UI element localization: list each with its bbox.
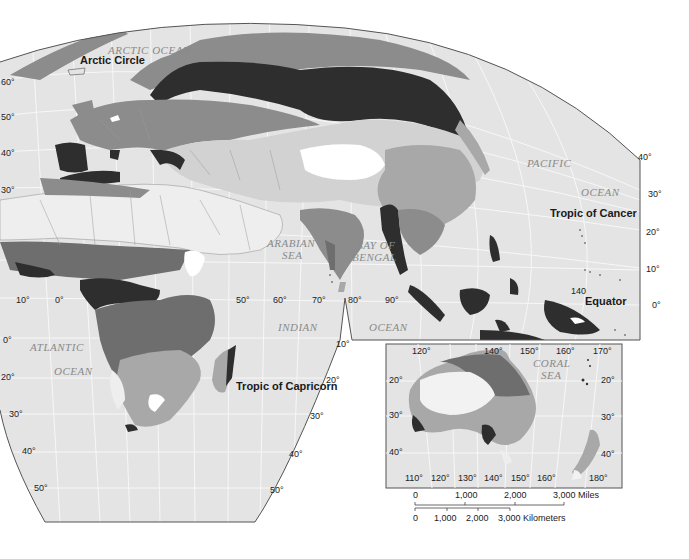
- scale-km-2000: 2,000: [466, 514, 489, 523]
- inset-lon-120: 120°: [412, 347, 431, 356]
- label-arabian: ARABIAN: [267, 238, 315, 249]
- inset-lon-110: 110°: [405, 474, 423, 483]
- label-pacific: PACIFIC: [527, 158, 571, 169]
- lat-left-20s: 20°: [1, 373, 15, 382]
- inset-lon-150: 150°: [520, 347, 539, 356]
- label-arabian-sea: SEA: [282, 250, 302, 261]
- scale-bars: [415, 502, 564, 511]
- scale-miles-0: 0: [413, 491, 418, 500]
- inset-lon-140: 140°: [484, 347, 503, 356]
- lat-left-40: 40°: [1, 149, 15, 158]
- lat-left-40s: 40°: [22, 447, 36, 456]
- australia-inset: [386, 344, 622, 488]
- inset-lat-left-20: 20°: [389, 376, 403, 385]
- scale-km-3000: 3,000 Kilometers: [498, 514, 566, 523]
- scale-miles-2000: 2,000: [504, 491, 527, 500]
- label-bengal: BENGAL: [352, 252, 397, 263]
- inset-lon-120-b: 120°: [431, 474, 450, 483]
- lat-right-30: 30°: [648, 190, 662, 199]
- lat-right-40: 40°: [638, 153, 652, 162]
- lon-50: 50°: [236, 296, 250, 305]
- inset-lat-right-40: 40°: [601, 450, 615, 459]
- label-tropic-of-cancer: Tropic of Cancer: [550, 208, 637, 219]
- lon-90: 90°: [385, 296, 399, 305]
- map-graphic: [0, 0, 689, 559]
- lat-right-10: 10°: [646, 265, 660, 274]
- lat-right-20: 20°: [646, 228, 660, 237]
- lat-south-30: 30°: [310, 412, 324, 421]
- lat-south-40: 40°: [289, 450, 303, 459]
- lat-south-10: 10°: [336, 340, 350, 349]
- label-equator: Equator: [585, 296, 627, 307]
- inset-lon-130-b: 130°: [458, 474, 477, 483]
- label-coral-sea: SEA: [541, 370, 561, 381]
- inset-lon-160-b: 160°: [537, 474, 556, 483]
- lon-10w: 10°: [16, 296, 30, 305]
- label-arctic-circle: Arctic Circle: [80, 55, 145, 66]
- lon-140: 140: [571, 287, 586, 296]
- inset-lat-right-30: 30°: [601, 413, 615, 422]
- lon-60: 60°: [273, 296, 287, 305]
- lat-left-50s: 50°: [34, 484, 48, 493]
- inset-lon-140-b: 140°: [484, 474, 503, 483]
- inset-lon-150-b: 150°: [511, 474, 530, 483]
- climate-map: ARCTIC OCEAN PACIFIC OCEAN ARABIAN SEA B…: [0, 0, 689, 559]
- lat-left-50: 50°: [1, 113, 15, 122]
- label-atlantic-ocean: OCEAN: [54, 366, 93, 377]
- label-bay-of: BAY OF: [356, 240, 395, 251]
- label-coral: CORAL: [533, 358, 570, 369]
- lat-south-50: 50°: [270, 486, 284, 495]
- scale-km-1000: 1,000: [434, 514, 457, 523]
- label-tropic-of-capricorn: Tropic of Capricorn: [236, 381, 337, 392]
- lat-south-20: 20°: [326, 376, 340, 385]
- scale-km-0: 0: [413, 514, 418, 523]
- label-pacific-ocean: OCEAN: [581, 187, 620, 198]
- lat-left-0: 0°: [3, 336, 12, 345]
- scale-miles-3000: 3,000 Miles: [553, 491, 599, 500]
- lon-80: 80°: [348, 296, 362, 305]
- inset-lon-160: 160°: [556, 347, 575, 356]
- label-indian: INDIAN: [278, 322, 318, 333]
- inset-lat-left-30: 30°: [389, 411, 403, 420]
- lon-0: 0°: [55, 296, 64, 305]
- label-indian-ocean: OCEAN: [369, 322, 408, 333]
- inset-lon-180-b: 180°: [589, 474, 608, 483]
- inset-lat-left-40: 40°: [389, 448, 403, 457]
- lat-left-30: 30°: [1, 186, 15, 195]
- scale-miles-1000: 1,000: [455, 491, 478, 500]
- lat-left-60: 60°: [1, 78, 15, 87]
- inset-lat-right-20: 20°: [601, 376, 615, 385]
- lat-left-30s: 30°: [9, 410, 23, 419]
- lat-right-0: 0°: [652, 301, 661, 310]
- label-atlantic: ATLANTIC: [30, 342, 84, 353]
- lon-70: 70°: [312, 296, 326, 305]
- inset-lon-170: 170°: [593, 347, 612, 356]
